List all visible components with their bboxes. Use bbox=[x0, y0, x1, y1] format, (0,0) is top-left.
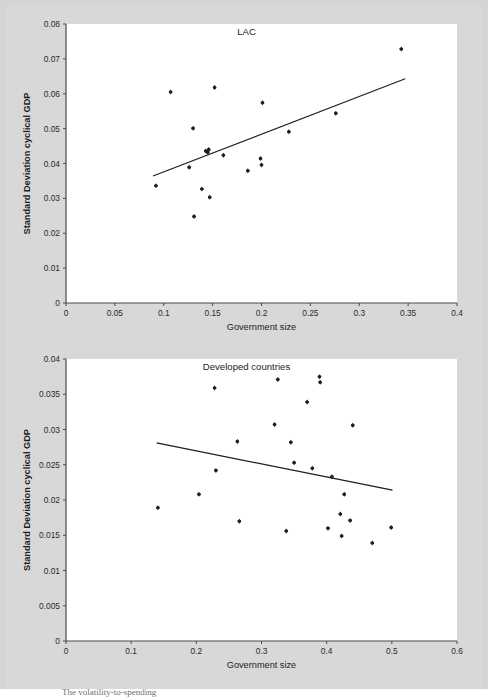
data-point-core bbox=[188, 166, 191, 168]
x-axis-title: Government size bbox=[227, 660, 296, 670]
x-tick-label: 0.4 bbox=[451, 308, 463, 318]
data-point-core bbox=[200, 188, 203, 190]
chart-title: Developed countries bbox=[203, 361, 291, 372]
scatter-plot-developed-countries: 00.0050.010.0150.020.0250.030.0350.0400.… bbox=[0, 344, 488, 689]
x-tick-label: 0.2 bbox=[191, 646, 203, 656]
data-point-core bbox=[287, 131, 290, 133]
data-point-core bbox=[246, 170, 249, 172]
x-tick-label: 0.6 bbox=[451, 646, 463, 656]
data-point-core bbox=[319, 381, 322, 383]
data-point-core bbox=[371, 542, 374, 544]
data-point-core bbox=[214, 469, 217, 471]
y-tick-label: 0.08 bbox=[44, 19, 61, 29]
y-tick-label: 0.035 bbox=[39, 389, 60, 399]
y-tick-label: 0.01 bbox=[44, 566, 61, 576]
data-point-core bbox=[334, 112, 337, 114]
data-point-core bbox=[236, 440, 239, 442]
y-tick-label: 0.005 bbox=[39, 601, 60, 611]
x-tick-label: 0.15 bbox=[204, 308, 221, 318]
data-point-core bbox=[349, 519, 352, 521]
figure-page: 00.010.020.030.040.050.060.070.0800.050.… bbox=[0, 0, 488, 699]
data-point-core bbox=[339, 513, 342, 515]
data-point-core bbox=[191, 127, 194, 129]
x-tick-label: 0.1 bbox=[125, 646, 137, 656]
data-point-core bbox=[260, 164, 263, 166]
data-point-core bbox=[390, 526, 393, 528]
x-tick-label: 0.4 bbox=[321, 646, 333, 656]
data-point-core bbox=[311, 467, 314, 469]
data-point-core bbox=[400, 48, 403, 50]
scatter-plot-lac: 00.010.020.030.040.050.060.070.0800.050.… bbox=[0, 0, 488, 344]
y-tick-label: 0.01 bbox=[44, 263, 61, 273]
x-axis-title: Government size bbox=[227, 322, 296, 332]
data-point-core bbox=[154, 185, 157, 187]
x-tick-label: 0 bbox=[64, 646, 69, 656]
y-tick-label: 0 bbox=[55, 636, 60, 646]
data-point-core bbox=[343, 493, 346, 495]
data-point-core bbox=[222, 154, 225, 156]
figure-caption-strip: The volatility-to-spending bbox=[0, 689, 488, 699]
y-tick-label: 0.02 bbox=[44, 228, 61, 238]
y-tick-label: 0.025 bbox=[39, 460, 60, 470]
data-point-core bbox=[306, 401, 309, 403]
x-tick-label: 0 bbox=[64, 308, 69, 318]
data-point-core bbox=[259, 158, 262, 160]
x-tick-label: 0.3 bbox=[256, 646, 268, 656]
data-point-core bbox=[197, 493, 200, 495]
x-tick-label: 0.05 bbox=[107, 308, 124, 318]
data-point-core bbox=[318, 376, 321, 378]
y-axis-title: Standard Deviation cyclical GDP bbox=[22, 429, 32, 571]
data-point-core bbox=[289, 441, 292, 443]
y-tick-label: 0.04 bbox=[44, 159, 61, 169]
data-point-core bbox=[261, 102, 264, 104]
chart-title: LAC bbox=[237, 26, 256, 37]
chart-panel-developed: 00.0050.010.0150.020.0250.030.0350.0400.… bbox=[0, 344, 488, 689]
data-point-core bbox=[169, 91, 172, 93]
y-tick-label: 0.05 bbox=[44, 124, 61, 134]
data-point-core bbox=[292, 462, 295, 464]
x-tick-label: 0.1 bbox=[158, 308, 170, 318]
y-tick-label: 0.06 bbox=[44, 89, 61, 99]
data-point-core bbox=[208, 196, 211, 198]
data-point-core bbox=[213, 387, 216, 389]
x-tick-label: 0.5 bbox=[386, 646, 398, 656]
data-point-core bbox=[238, 520, 241, 522]
y-tick-label: 0.015 bbox=[39, 530, 60, 540]
y-tick-label: 0.07 bbox=[44, 54, 61, 64]
x-tick-label: 0.35 bbox=[400, 308, 417, 318]
data-point-core bbox=[276, 378, 279, 380]
data-point-core bbox=[285, 530, 288, 532]
x-tick-label: 0.3 bbox=[353, 308, 365, 318]
y-tick-label: 0.03 bbox=[44, 193, 61, 203]
data-point-core bbox=[340, 535, 343, 537]
figure-caption: The volatility-to-spending bbox=[62, 689, 156, 697]
y-tick-label: 0.03 bbox=[44, 425, 61, 435]
data-point-core bbox=[156, 507, 159, 509]
data-point-core bbox=[330, 476, 333, 478]
data-point-core bbox=[192, 215, 195, 217]
data-point-core bbox=[273, 423, 276, 425]
data-point-core bbox=[351, 424, 354, 426]
data-point-core bbox=[326, 527, 329, 529]
chart-panel-lac: 00.010.020.030.040.050.060.070.0800.050.… bbox=[0, 0, 488, 344]
data-point-core bbox=[213, 86, 216, 88]
y-tick-label: 0.04 bbox=[44, 354, 61, 364]
y-tick-label: 0 bbox=[55, 298, 60, 308]
x-tick-label: 0.2 bbox=[256, 308, 268, 318]
data-point-core bbox=[207, 148, 210, 150]
x-tick-label: 0.25 bbox=[302, 308, 319, 318]
plot-area-background bbox=[66, 359, 457, 641]
y-axis-title: Standard Deviation cyclical GDP bbox=[22, 93, 32, 235]
y-tick-label: 0.02 bbox=[44, 495, 61, 505]
